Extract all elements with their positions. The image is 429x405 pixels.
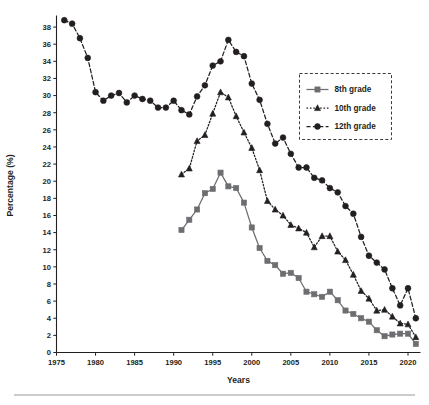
data-point (249, 81, 255, 87)
data-point (343, 257, 349, 263)
data-point (147, 98, 153, 104)
y-tick-label: 18 (43, 194, 51, 203)
data-point (327, 185, 333, 191)
data-point (85, 55, 91, 61)
data-point (249, 145, 255, 151)
data-point (179, 107, 185, 113)
data-point (358, 234, 364, 240)
data-point (272, 141, 278, 147)
data-point (225, 37, 231, 43)
data-point (288, 151, 294, 157)
data-point (389, 285, 395, 291)
data-point (225, 94, 231, 100)
data-point (374, 328, 379, 333)
data-point (382, 267, 388, 273)
y-axis-title: Percentage (%) (5, 154, 15, 216)
data-point (405, 331, 410, 336)
data-point (405, 285, 411, 291)
data-point (413, 341, 418, 346)
y-tick-label: 28 (43, 109, 51, 118)
data-point (210, 110, 216, 116)
y-tick-label: 34 (43, 57, 52, 66)
y-tick-label: 14 (43, 228, 52, 237)
data-point (398, 331, 403, 336)
data-point (343, 308, 348, 313)
y-tick-label: 10 (43, 263, 51, 272)
y-tick-label: 8 (47, 280, 51, 289)
data-point (210, 63, 216, 69)
legend-label: 12th grade (335, 122, 377, 131)
data-point (69, 21, 75, 27)
data-point (241, 53, 247, 59)
y-tick-label: 32 (43, 74, 51, 83)
data-point (397, 302, 403, 308)
data-point (382, 334, 387, 339)
data-point (296, 165, 302, 171)
data-point (61, 17, 67, 23)
y-tick-label: 36 (43, 40, 51, 49)
y-tick-label: 22 (43, 160, 51, 169)
data-point (335, 189, 341, 195)
data-point (186, 112, 192, 118)
data-point (116, 90, 122, 96)
legend-marker (315, 124, 321, 130)
data-point (257, 245, 262, 250)
x-tick-label: 1990 (165, 358, 182, 367)
data-point (359, 316, 364, 321)
data-point (257, 167, 263, 173)
data-point (100, 98, 106, 104)
data-point (413, 334, 419, 340)
x-tick-label: 1985 (126, 358, 144, 367)
data-point (319, 294, 324, 299)
chart-figure: 02468101214161820222426283032343638 1975… (0, 0, 429, 405)
data-point (265, 258, 270, 263)
data-point (288, 270, 293, 275)
data-point (202, 82, 208, 88)
data-point (311, 244, 317, 250)
data-point (343, 203, 349, 209)
data-point (304, 289, 309, 294)
y-tick-label: 4 (47, 314, 52, 323)
series-8th-grade (179, 170, 419, 346)
data-point (179, 227, 184, 232)
data-point (132, 93, 138, 99)
y-axis-ticks: 02468101214161820222426283032343638 (43, 23, 57, 357)
data-point (226, 184, 231, 189)
data-point (124, 100, 130, 106)
data-point (93, 89, 99, 95)
line-chart: 02468101214161820222426283032343638 1975… (0, 0, 429, 405)
data-point (234, 185, 239, 190)
data-point (413, 315, 419, 321)
data-point (194, 94, 200, 100)
y-tick-label: 16 (43, 211, 51, 220)
data-point (195, 207, 200, 212)
data-point (296, 225, 302, 231)
data-point (311, 175, 317, 181)
data-series-group (61, 17, 418, 346)
x-tick-label: 1975 (48, 358, 66, 367)
y-tick-label: 20 (43, 177, 51, 186)
data-point (296, 275, 301, 280)
data-point (264, 198, 270, 204)
data-point (312, 292, 317, 297)
x-tick-label: 1995 (204, 358, 222, 367)
data-point (257, 97, 263, 103)
y-tick-label: 30 (43, 91, 51, 100)
data-point (218, 89, 224, 95)
data-point (389, 313, 395, 319)
data-point (210, 186, 215, 191)
data-point (280, 271, 285, 276)
data-point (233, 113, 239, 119)
data-point (319, 177, 325, 183)
data-point (163, 105, 169, 111)
data-point (335, 248, 341, 254)
data-point (280, 135, 286, 141)
data-point (335, 298, 340, 303)
data-point (350, 211, 356, 217)
data-point (77, 35, 83, 41)
legend-items: 8th grade10th grade12th grade (307, 85, 377, 131)
x-axis-title: Years (227, 375, 250, 385)
data-point (249, 225, 254, 230)
data-point (178, 171, 184, 177)
data-point (218, 58, 224, 64)
